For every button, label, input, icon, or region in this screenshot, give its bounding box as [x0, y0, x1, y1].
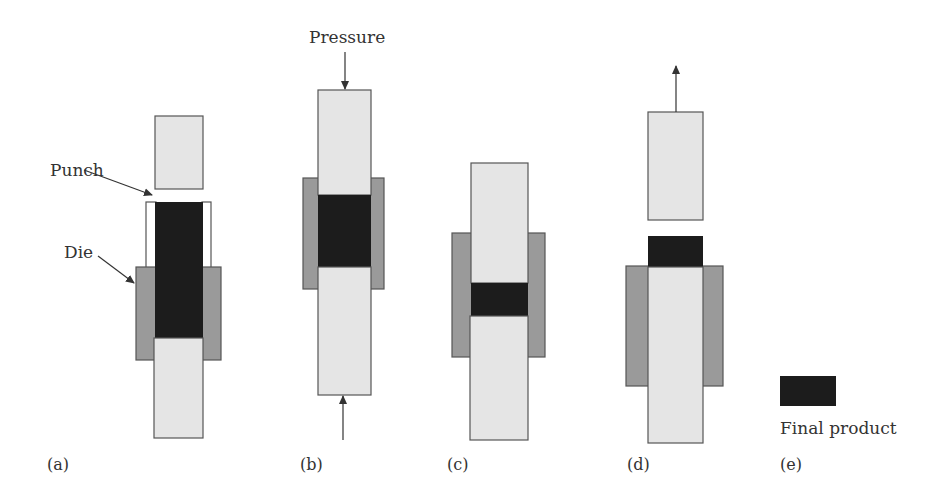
panel-e: Final product (e)	[780, 376, 897, 474]
panel-label-e: (e)	[780, 455, 802, 474]
die-wall-extension-right	[202, 202, 211, 268]
final-product-swatch	[780, 376, 836, 406]
panel-label-d: (d)	[627, 455, 650, 474]
panel-c: (c)	[447, 163, 545, 474]
lower-punch	[470, 316, 528, 440]
lower-punch	[318, 267, 371, 395]
panel-d: (d)	[626, 66, 723, 474]
ejected-compact	[648, 236, 703, 267]
upper-punch	[155, 116, 203, 189]
die-wall-extension-left	[146, 202, 156, 268]
panel-a: Punch Die (a)	[47, 116, 221, 474]
compacted-powder	[318, 195, 371, 267]
upper-punch	[648, 112, 703, 220]
compaction-diagram: Punch Die (a) Pressure (b) (c) (d) Final…	[0, 0, 950, 503]
upper-punch	[318, 90, 371, 195]
upper-punch	[471, 163, 528, 283]
compacted-powder	[471, 283, 528, 316]
lower-punch	[648, 267, 703, 443]
panel-b: Pressure (b)	[300, 27, 385, 474]
panel-label-b: (b)	[300, 455, 323, 474]
punch-label: Punch	[50, 160, 104, 180]
final-product-label: Final product	[780, 418, 897, 438]
powder-fill	[155, 202, 203, 339]
panel-label-a: (a)	[47, 455, 69, 474]
panel-label-c: (c)	[447, 455, 468, 474]
die-arrow	[98, 256, 134, 283]
die-label: Die	[64, 242, 93, 262]
pressure-label: Pressure	[309, 27, 385, 47]
lower-punch	[154, 338, 203, 438]
